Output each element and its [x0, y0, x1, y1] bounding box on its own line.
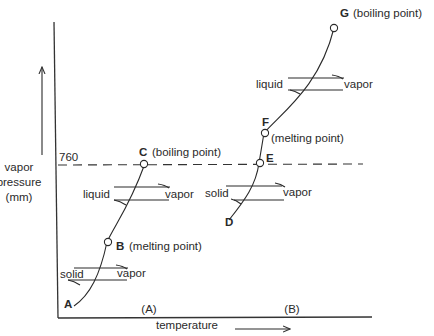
point-e-letter: E — [266, 152, 274, 164]
point-g-marker — [330, 24, 337, 31]
liquid-label-b: liquid — [256, 78, 283, 90]
point-a-letter: A — [64, 298, 72, 310]
curve-panel-b — [229, 28, 334, 220]
point-g-note: (boiling point) — [353, 7, 422, 19]
point-f-marker — [261, 129, 268, 136]
vapor-label-b1: vapor — [283, 186, 312, 198]
solid-label-b: solid — [205, 187, 229, 199]
y-axis-label-line1: vapor — [5, 161, 34, 173]
equilibrium-solid-vapor-b — [226, 183, 285, 204]
point-e-marker — [256, 159, 263, 166]
panel-b-label: (B) — [284, 303, 300, 315]
x-axis — [58, 317, 372, 318]
point-g-letter: G — [340, 7, 349, 19]
point-f-letter: F — [262, 116, 269, 128]
y-axis-label-line2: pressure — [0, 176, 41, 188]
vapor-label-b2: vapor — [344, 78, 373, 90]
y-axis — [54, 22, 58, 318]
point-c-marker — [140, 160, 147, 167]
liquid-label-a: liquid — [83, 188, 110, 200]
vapor-label-a2: vapor — [165, 188, 194, 200]
point-b-marker — [104, 238, 111, 245]
equilibrium-liquid-vapor-b — [288, 75, 344, 94]
reference-value-label: 760 — [59, 151, 78, 163]
point-b-note: (melting point) — [129, 240, 202, 252]
y-axis-label-line3: (mm) — [6, 191, 33, 203]
solid-label-a: solid — [60, 268, 84, 280]
equilibrium-liquid-vapor-a — [114, 184, 170, 205]
point-c-letter: C — [139, 146, 147, 158]
point-d-letter: D — [225, 216, 233, 228]
point-f-note: (melting point) — [271, 132, 344, 144]
point-b-letter: B — [116, 240, 124, 252]
reference-line-760 — [58, 164, 363, 165]
point-c-note: (boiling point) — [152, 146, 221, 158]
panel-a-label: (A) — [141, 303, 157, 315]
x-axis-label: temperature — [156, 319, 218, 331]
vapor-pressure-diagram: vapor pressure (mm) 760 temperature (A) … — [0, 0, 434, 336]
vapor-label-a1: vapor — [117, 267, 146, 279]
